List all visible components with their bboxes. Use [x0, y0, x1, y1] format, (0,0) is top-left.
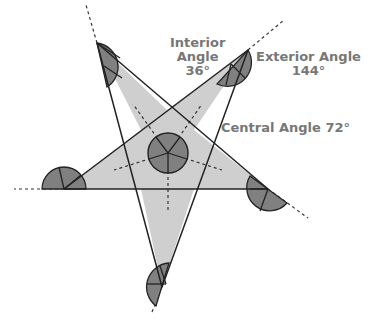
exterior-angle-title: Exterior Angle: [256, 50, 361, 64]
interior-angle-value: 36°: [170, 64, 225, 78]
pentagram-diagram: Interior Angle 36° Exterior Angle 144° C…: [0, 0, 371, 320]
exterior-angle-label: Exterior Angle 144°: [256, 50, 361, 78]
interior-angle-title-2: Angle: [170, 50, 225, 64]
central-angle-label: Central Angle 72°: [221, 121, 350, 135]
central-angle-circle: [148, 133, 188, 173]
extension-line-top-right: [248, 20, 284, 50]
exterior-angle-value: 144°: [256, 64, 361, 78]
interior-angle-title-1: Interior: [170, 36, 225, 50]
extension-line-top-left: [86, 5, 97, 43]
interior-angle-label: Interior Angle 36°: [170, 36, 225, 78]
